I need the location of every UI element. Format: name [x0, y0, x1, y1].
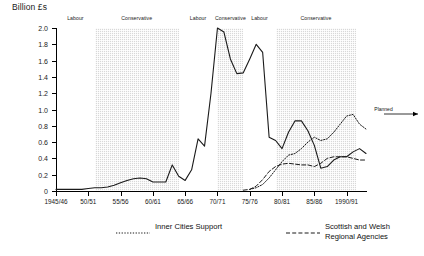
legend-label: Scottish and Welsh Regional Agencies: [325, 222, 390, 241]
period-label-conservative-1: Conservative: [121, 15, 152, 21]
y-tick-label: 1.2: [38, 90, 48, 97]
y-tick-label: 1.8: [38, 41, 48, 48]
x-tick-mark: [314, 192, 315, 196]
x-tick-label: 80/81: [274, 198, 290, 205]
series-layer: [56, 28, 366, 191]
y-tick-label: 1.4: [38, 73, 48, 80]
x-tick-label: 60/61: [145, 198, 161, 205]
series-line-regional-industrial-aid: [56, 28, 366, 189]
y-tick-label: 0.2: [38, 171, 48, 178]
x-tick-mark: [217, 192, 218, 196]
x-tick-label: 1945/46: [44, 198, 67, 205]
x-tick-label: 65/66: [177, 198, 193, 205]
period-label-conservative-5: Conservative: [301, 15, 332, 21]
x-tick-mark: [121, 192, 122, 196]
y-tick-label: 1.0: [38, 106, 48, 113]
period-label-labour-2: Labour: [190, 15, 206, 21]
planned-arrow-icon: [366, 100, 422, 122]
x-axis-line: [56, 191, 367, 192]
y-tick-label: 2.0: [38, 25, 48, 32]
y-axis-title: Billion £s: [12, 2, 47, 12]
x-tick-mark: [88, 192, 89, 196]
x-tick-label: 85/86: [306, 198, 322, 205]
legend-entry-1[interactable]: Scottish and Welsh Regional Agencies: [286, 222, 390, 241]
x-tick-mark: [250, 192, 251, 196]
y-tick-label: 0.4: [38, 155, 48, 162]
chart-container: Billion £s LabourConservativeLabourConse…: [0, 0, 424, 256]
x-tick-mark: [185, 192, 186, 196]
x-tick-label: 70/71: [209, 198, 225, 205]
legend-label: Inner Cities Support: [155, 222, 222, 232]
x-tick-label: 55/56: [113, 198, 129, 205]
series-line-inner-cities-support: [250, 114, 366, 189]
chart-legend: Inner Cities SupportScottish and Welsh R…: [56, 222, 412, 250]
y-tick-label: 0: [44, 188, 48, 195]
x-tick-mark: [153, 192, 154, 196]
period-label-labour-4: Labour: [251, 15, 267, 21]
x-tick-label: 75/76: [242, 198, 258, 205]
y-tick-label: 1.6: [38, 57, 48, 64]
legend-swatch-dashed: [286, 223, 320, 232]
period-label-conservative-3: Conservative: [215, 15, 246, 21]
period-label-labour-0: Labour: [67, 15, 83, 21]
x-tick-label: 50/51: [80, 198, 96, 205]
y-tick-label: 0.8: [38, 122, 48, 129]
x-tick-mark: [56, 192, 57, 196]
legend-swatch-dotted: [116, 223, 150, 232]
x-tick-label: 1990/91: [335, 198, 358, 205]
y-tick-label: 0.6: [38, 139, 48, 146]
x-tick-mark: [282, 192, 283, 196]
x-tick-mark: [347, 192, 348, 196]
legend-entry-0[interactable]: Inner Cities Support: [116, 222, 222, 232]
